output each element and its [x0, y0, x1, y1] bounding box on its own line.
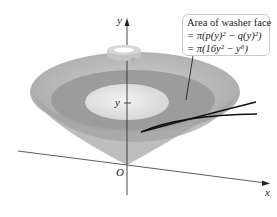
callout-line-3: = π(16y² − y⁶): [187, 42, 269, 55]
y-tick-label: y: [115, 96, 120, 108]
y-axis-label: y: [117, 14, 122, 26]
origin-label: O: [116, 166, 124, 178]
callout-line-2: = π(p(y)² − q(y)²): [187, 29, 269, 42]
callout-line-1: Area of washer face: [187, 16, 269, 29]
y-axis-arrow: [125, 18, 130, 26]
washer-area-callout: Area of washer face = π(p(y)² − q(y)²) =…: [182, 14, 270, 56]
x-axis-label: x: [265, 186, 270, 198]
x-axis: [127, 165, 266, 183]
